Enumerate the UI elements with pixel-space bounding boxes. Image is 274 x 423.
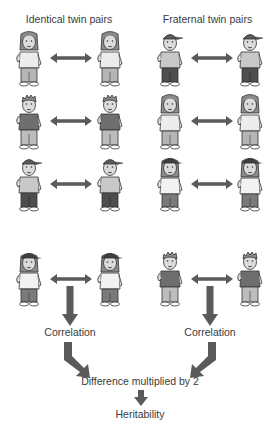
double-arrow-icon [50, 274, 92, 284]
double-arrow-icon [191, 179, 233, 189]
double-arrow-icon [50, 116, 92, 126]
boy-cap-figure-icon [235, 30, 265, 88]
correlation-right-label: Correlation [170, 326, 250, 338]
girl-cap-figure-icon [155, 155, 185, 213]
double-arrow-icon [191, 274, 233, 284]
converging-arrows-icon [60, 342, 220, 378]
fraternal-title: Fraternal twin pairs [150, 13, 265, 25]
boy-cap-figure-icon [155, 30, 185, 88]
girl-figure-icon [95, 30, 125, 88]
boy-cap-figure-icon [14, 155, 44, 213]
girl-figure-icon [155, 93, 185, 151]
boy-spiky-figure-icon [95, 93, 125, 151]
double-arrow-icon [50, 179, 92, 189]
boy-cap-figure-icon [95, 155, 125, 213]
girl-cap-figure-icon [14, 250, 44, 308]
double-arrow-icon [50, 53, 92, 63]
identical-title: Identical twin pairs [14, 13, 124, 25]
girl-cap-figure-icon [95, 250, 125, 308]
correlation-left-label: Correlation [30, 326, 110, 338]
boy-spiky-figure-icon [235, 250, 265, 308]
girl-figure-icon [235, 93, 265, 151]
down-arrow-icon [202, 286, 218, 326]
girl-figure-icon [14, 30, 44, 88]
double-arrow-icon [191, 116, 233, 126]
boy-spiky-figure-icon [14, 93, 44, 151]
difference-label: Difference multiplied by 2 [60, 375, 220, 387]
girl-cap-figure-icon [235, 155, 265, 213]
down-arrow-icon [62, 286, 78, 326]
boy-spiky-figure-icon [155, 250, 185, 308]
down-arrow-icon [134, 390, 148, 406]
heritability-label: Heritability [90, 408, 190, 420]
double-arrow-icon [191, 53, 233, 63]
